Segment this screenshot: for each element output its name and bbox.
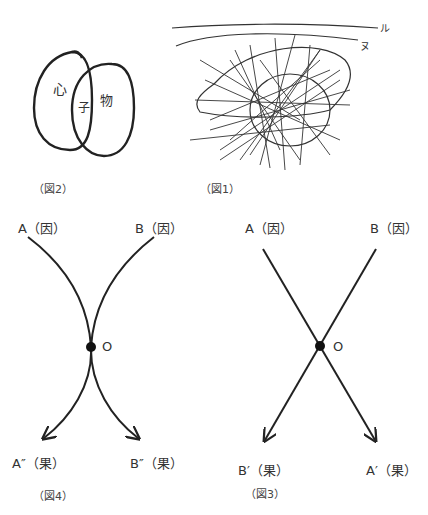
fig1-top-line-label: ル — [380, 20, 390, 35]
fig3-center-label: O — [333, 339, 343, 354]
fig3-caption: （図3） — [245, 485, 285, 501]
fig2-caption: （図2） — [33, 180, 73, 196]
fig2-overlap-label: 子 — [78, 98, 90, 115]
fig4-top-left-label: A（因） — [18, 218, 66, 237]
fig3-center-point — [315, 341, 325, 351]
fig2-left-label: 心 — [53, 78, 67, 98]
fig1-caption: （図1） — [200, 180, 240, 196]
fig4-caption: （図4） — [33, 487, 73, 503]
fig2-right-label: 物 — [100, 90, 113, 109]
fig4-bottom-right-label: B″（果） — [130, 453, 183, 472]
fig1-sketch — [172, 24, 378, 170]
fig3-top-left-label: A（因） — [245, 218, 293, 237]
fig4-curves — [28, 237, 154, 438]
fig1-second-line-label: ヌ — [360, 38, 370, 53]
fig4-bottom-left-label: A″（果） — [12, 453, 65, 472]
fig4-top-right-label: B（因） — [135, 218, 183, 237]
fig3-bottom-right-label: A′（果） — [366, 460, 417, 479]
fig4-center-label: O — [102, 339, 112, 354]
fig4-center-point — [86, 342, 96, 352]
fig3-top-right-label: B（因） — [370, 218, 418, 237]
fig3-bottom-left-label: B′（果） — [238, 460, 289, 479]
